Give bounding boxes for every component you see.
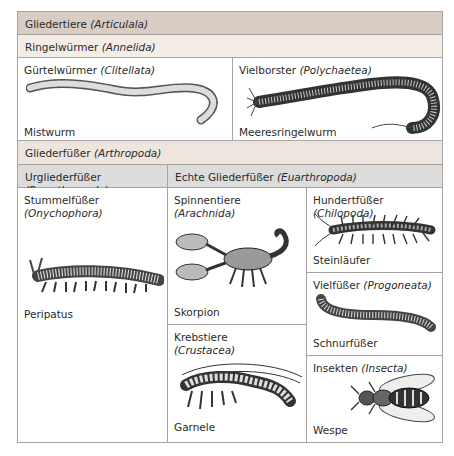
example-name: Wespe [313,424,348,437]
cell-onychophora: Stummelfüßer (Onychophora) Peripatus [18,188,168,442]
header-latin: (Articulala) [90,18,148,30]
velvet-worm-icon [24,250,164,300]
header-proarthropoda: Urgliederfüßer (Proarthropoda) [18,165,168,188]
cell-polychaetea: Vielborster (Polychaetea) Meeresringelwu… [233,58,442,141]
taxonomy-table: Gliedertiere (Articulala) Ringelwürmer (… [17,11,443,443]
header-arthropoda: Gliederfüßer (Arthropoda) [18,141,442,165]
group-name: Gürtelwürmer [24,64,97,76]
group-latin: (Progoneata) [363,279,431,291]
group-latin: (Arachnida) [174,207,306,220]
example-name: Mistwurm [24,126,75,139]
cell-crustacea: Krebstiere (Crustacea) Garnele [168,325,307,442]
centipede-icon [313,212,438,248]
header-common: Echte Gliederfüßer [175,171,274,183]
cell-chilopoda: Hundertfüßer (Chilopoda) Steinläufer [307,188,442,273]
example-name: Garnele [174,421,215,434]
group-name: Hundertfüßer [313,194,384,206]
example-name: Steinläufer [313,254,370,267]
header-common: Gliedertiere [25,18,87,30]
example-name: Schnurfüßer [313,337,377,350]
example-name: Meeresringelwurm [239,126,337,139]
group-latin: (Clitellata) [100,64,155,76]
millipede-icon [313,291,438,333]
wasp-icon [347,372,437,424]
cell-clitellata: Gürtelwürmer (Clitellata) Mistwurm [18,58,233,141]
header-common: Ringelwürmer [25,41,98,53]
group-name: Krebstiere [174,331,306,344]
group-name: Spinnentiere [174,194,306,207]
group-latin: (Onychophora) [24,207,167,220]
example-name: Skorpion [174,306,220,319]
header-latin: (Arthropoda) [94,147,161,159]
scorpion-icon [172,226,304,296]
example-name: Peripatus [24,308,73,321]
header-latin: (Annelida) [102,41,156,53]
header-articulata: Gliedertiere (Articulala) [18,12,442,35]
header-annelida: Ringelwürmer (Annelida) [18,35,442,58]
header-common: Urgliederfüßer [25,171,101,183]
cell-arachnida: Spinnentiere (Arachnida) Skorpion [168,188,307,325]
header-euarthropoda: Echte Gliederfüßer (Euarthropoda) [168,165,442,188]
group-name: Stummelfüßer [24,194,167,207]
cell-insecta: Insekten (Insecta) Wespe [307,356,442,442]
header-common: Gliederfüßer [25,147,91,159]
cell-progoneata: Vielfüßer (Progoneata) Schnurfüßer [307,273,442,356]
header-latin: (Euarthropoda) [277,171,357,183]
shrimp-icon [172,355,304,415]
group-name: Vielfüßer [313,279,360,291]
earthworm-icon [26,76,226,126]
